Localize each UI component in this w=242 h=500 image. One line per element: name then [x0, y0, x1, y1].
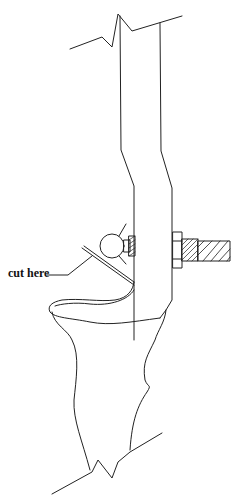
hook-clamp-diagram	[0, 0, 242, 500]
cut-line-1	[82, 248, 134, 285]
rod-right-edge	[160, 23, 172, 318]
cut-here-label: cut here	[8, 266, 49, 281]
post-right	[130, 310, 166, 450]
cut-leader	[47, 256, 92, 275]
rod-left-edge	[120, 16, 134, 340]
hook-outer	[49, 282, 160, 324]
hex-nut	[173, 232, 182, 268]
ball-icon	[100, 234, 124, 258]
break-line-top	[70, 14, 182, 49]
post-left	[52, 312, 90, 470]
break-line-bottom	[52, 433, 162, 494]
